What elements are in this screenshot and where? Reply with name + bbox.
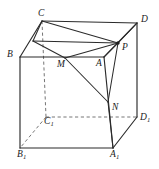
point-label-p: P [122,43,128,53]
vertex-label-text-a: A [96,58,102,68]
vertex-label-subscript-d1: 1 [147,116,150,123]
construction-lines-group [33,21,137,148]
vertex-label-subscript-a1: 1 [116,153,119,160]
geometry-figure: CDBAC1D1B1A1MPN [0,0,159,169]
line-P-D [118,23,137,43]
vertex-label-text-c: C [38,8,44,18]
edge-C-D [42,21,137,23]
vertex-label-c: C [38,9,44,19]
figure-canvas [0,0,159,169]
line-C-E [33,21,42,41]
hidden-edge-C-C1 [42,21,46,117]
vertex-label-text-c1: C [44,116,50,126]
line-C-P [42,21,118,43]
line-E-M [33,41,65,58]
edge-A1-D1 [113,117,137,148]
point-label-text-m: M [57,59,65,69]
vertex-label-d: D [141,15,148,25]
vertex-dots-group [116,41,119,44]
hidden-edges-group [20,21,137,148]
edge-B-C [20,21,42,57]
point-label-text-n: N [112,102,118,112]
point-label-m: M [57,60,65,70]
vertex-label-d1: D1 [140,113,150,123]
vertex-label-c1: C1 [44,117,54,127]
vertex-label-text-b: B [7,49,13,59]
vertex-label-subscript-b1: 1 [23,153,26,160]
solid-edges-group [20,21,137,148]
vertex-label-text-a1: A [110,149,116,159]
vertex-label-text-d: D [141,14,148,24]
vertex-label-a: A [96,59,102,69]
vertex-label-subscript-c1: 1 [51,120,54,127]
vertex-label-text-d1: D [140,112,147,122]
vertex-label-text-b1: B [17,149,23,159]
point-dot-p [116,41,119,44]
vertex-label-a1: A1 [110,150,119,160]
point-label-text-p: P [122,42,128,52]
vertex-label-b: B [7,50,13,60]
point-label-n: N [112,103,118,113]
vertex-label-b1: B1 [17,150,26,160]
hidden-edge-C1-B1 [20,117,46,148]
line-E-P [33,41,118,43]
